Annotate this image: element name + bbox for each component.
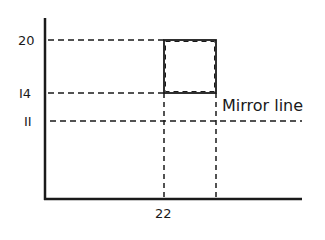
x-label-22: 22 [155, 207, 172, 220]
square-inner-dashes [166, 42, 215, 92]
mirror-line-label: Mirror line [222, 98, 303, 114]
y-label-14: I4 [19, 87, 31, 100]
y-label-11: II [24, 115, 32, 128]
y-label-20: 20 [18, 34, 35, 47]
square-shape [164, 40, 216, 93]
